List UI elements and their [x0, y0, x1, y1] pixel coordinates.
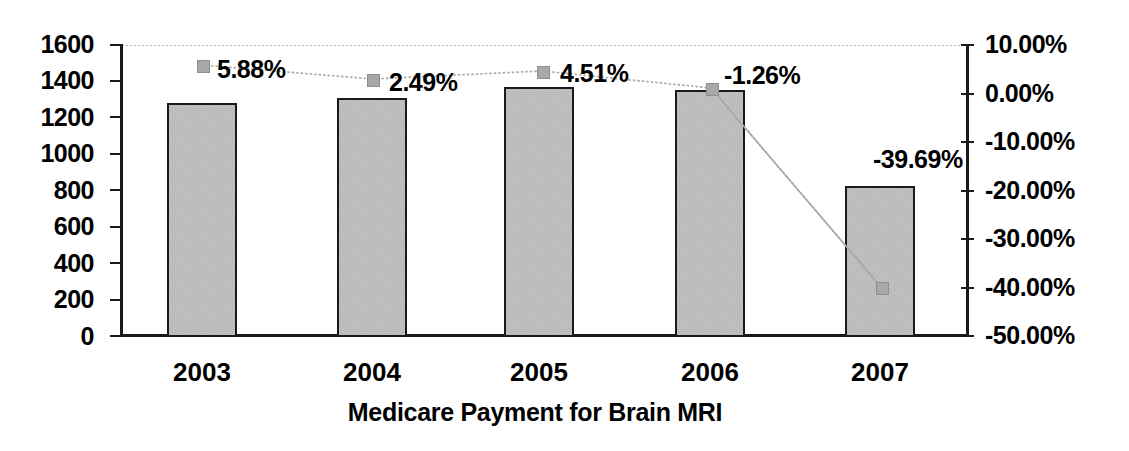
bar-2007	[845, 186, 915, 337]
left-axis-label-1200: 1200	[40, 105, 94, 130]
left-axis-label-1600: 1600	[40, 32, 94, 57]
x-axis-title: Medicare Payment for Brain MRI	[0, 398, 1070, 427]
right-axis-label-n40: -40.00%	[985, 275, 1075, 300]
bar-2004	[337, 98, 407, 337]
left-axis-tick-1200	[110, 116, 121, 118]
left-axis-label-400: 400	[54, 251, 94, 276]
left-axis-tick-200	[110, 299, 121, 301]
category-label-2004: 2004	[297, 357, 447, 388]
right-axis-label-10: 10.00%	[985, 32, 1067, 57]
left-axis-tick-0	[110, 335, 121, 337]
line-marker-2003	[197, 60, 210, 73]
left-axis-label-1000: 1000	[40, 141, 94, 166]
left-axis-label-600: 600	[54, 214, 94, 239]
left-axis-tick-400	[110, 262, 121, 264]
bar-2006	[675, 90, 745, 337]
data-label-2006: -1.26%	[724, 63, 800, 88]
category-label-2005: 2005	[464, 357, 614, 388]
right-axis-tick-n50	[961, 335, 974, 337]
right-axis-label-n20: -20.00%	[985, 178, 1075, 203]
left-axis-label-800: 800	[54, 178, 94, 203]
line-marker-2007	[876, 282, 889, 295]
data-label-2004: 2.49%	[389, 70, 457, 95]
right-axis-label-0: 0.00%	[985, 81, 1053, 106]
bar-2005	[504, 87, 574, 337]
left-axis-tick-800	[110, 189, 121, 191]
category-label-2003: 2003	[127, 357, 277, 388]
line-marker-2005	[537, 66, 550, 79]
category-label-2007: 2007	[805, 357, 955, 388]
right-axis-tick-n40	[961, 287, 974, 289]
left-axis-tick-1400	[110, 80, 121, 82]
right-axis-tick-0	[961, 93, 974, 95]
left-axis-label-200: 200	[54, 287, 94, 312]
line-marker-2004	[367, 74, 380, 87]
right-axis-tick-n30	[961, 238, 974, 240]
left-axis-tick-600	[110, 226, 121, 228]
left-axis-tick-1000	[110, 153, 121, 155]
right-axis-tick-n20	[961, 190, 974, 192]
right-axis-label-n10: -10.00%	[985, 129, 1075, 154]
right-axis-tick-n10	[961, 141, 974, 143]
left-axis-label-0: 0	[81, 324, 94, 349]
right-axis-tick-10	[961, 44, 974, 46]
data-label-2003: 5.88%	[217, 57, 285, 82]
category-label-2006: 2006	[635, 357, 785, 388]
chart-container: 1600 1400 1200 1000 800 600 400 200 0 10…	[0, 0, 1129, 451]
data-label-2005: 4.51%	[560, 61, 628, 86]
bar-2003	[167, 103, 237, 337]
left-axis-tick-1600	[110, 44, 121, 46]
line-marker-2006	[706, 83, 719, 96]
data-label-2007: -39.69%	[873, 147, 963, 172]
left-axis-label-1400: 1400	[40, 68, 94, 93]
right-axis-label-n30: -30.00%	[985, 226, 1075, 251]
gridline-top	[122, 45, 967, 46]
right-axis-label-n50: -50.00%	[985, 323, 1075, 348]
